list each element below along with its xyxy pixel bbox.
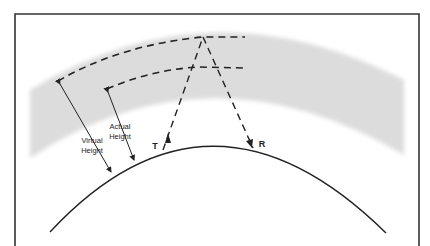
receiver-label: R	[259, 139, 266, 149]
diagram-canvas: Virtual Height Actual Height T R	[0, 0, 430, 246]
actual-height-label-line2: Height	[109, 132, 132, 141]
transmitter-label: T	[152, 141, 158, 151]
earth-surface	[50, 146, 386, 233]
transmitter-arrow-icon	[165, 133, 171, 143]
virtual-height-label-line2: Height	[81, 146, 104, 155]
actual-height-label-line1: Actual	[110, 122, 131, 131]
receiver-arrow-icon	[246, 139, 253, 148]
virtual-height-label-line1: Virtual	[81, 136, 102, 145]
